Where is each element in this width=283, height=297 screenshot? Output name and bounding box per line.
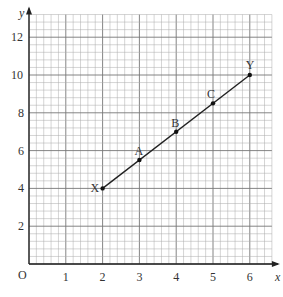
point-label-b: B: [171, 117, 179, 129]
x-tick-label: 2: [100, 271, 106, 283]
point-label-y: Y: [246, 59, 255, 71]
origin-label: O: [18, 269, 27, 281]
x-tick-label: 4: [173, 271, 179, 283]
y-tick-label: 2: [18, 220, 24, 232]
y-tick-label: 10: [11, 69, 23, 81]
x-tick-label: 6: [247, 271, 253, 283]
x-axis-label: x: [275, 271, 280, 283]
y-tick-label: 4: [18, 182, 24, 194]
x-tick-label: 5: [210, 271, 216, 283]
point-label-a: A: [134, 145, 143, 157]
y-axis-label: y: [19, 7, 24, 19]
y-tick-label: 6: [18, 145, 24, 157]
y-tick-label: 12: [11, 31, 23, 43]
point-label-c: C: [207, 88, 215, 100]
y-tick-label: 8: [18, 107, 24, 119]
point-label-x: X: [91, 182, 100, 194]
x-tick-label: 3: [136, 271, 142, 283]
x-tick-label: 1: [63, 271, 69, 283]
